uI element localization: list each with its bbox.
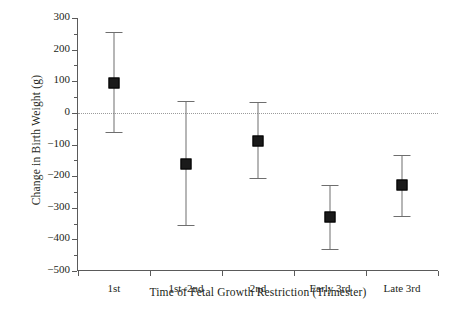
error-bar-cap-lower: [394, 216, 411, 217]
y-tick: [72, 81, 77, 82]
y-tick: [72, 271, 77, 272]
error-bar-cap-lower: [106, 132, 123, 133]
error-bar-cap-lower: [178, 225, 195, 226]
y-tick: [72, 145, 77, 146]
error-bar-cap-lower: [250, 178, 267, 179]
x-axis-line: [77, 270, 438, 271]
y-tick-label: −400: [47, 231, 70, 243]
error-bar-cap-upper: [250, 102, 267, 103]
y-tick: [72, 50, 77, 51]
y-tick-label: −500: [47, 263, 70, 275]
data-point-marker: [109, 77, 120, 88]
x-tick: [366, 271, 367, 276]
y-tick: [72, 208, 77, 209]
y-tick-label: −200: [47, 168, 70, 180]
y-tick-minor: [74, 224, 77, 225]
x-tick: [78, 271, 79, 276]
data-point-marker: [253, 135, 264, 146]
y-tick-label: 200: [54, 42, 71, 54]
chart-figure: Change in Birth Weight (g) 3002001000−10…: [0, 0, 462, 312]
error-bar-cap-upper: [178, 101, 195, 102]
error-bar-cap-upper: [106, 32, 123, 33]
y-axis-label: Change in Birth Weight (g): [30, 10, 46, 270]
x-axis-label: Time of Fetal Growth Restriction (Trimes…: [78, 286, 438, 298]
y-tick-label: −100: [47, 137, 70, 149]
y-tick: [72, 113, 77, 114]
x-tick: [294, 271, 295, 276]
y-tick-minor: [74, 192, 77, 193]
y-axis-line: [77, 18, 78, 271]
x-tick: [222, 271, 223, 276]
error-bar-cap-upper: [394, 155, 411, 156]
y-tick: [72, 239, 77, 240]
y-tick-label: 300: [54, 10, 71, 22]
y-tick-minor: [74, 34, 77, 35]
error-bar-cap-lower: [322, 249, 339, 250]
x-tick: [438, 271, 439, 276]
y-tick-label: 0: [65, 105, 71, 117]
y-tick-minor: [74, 160, 77, 161]
data-point-marker: [181, 159, 192, 170]
x-tick: [150, 271, 151, 276]
y-tick-minor: [74, 129, 77, 130]
y-tick: [72, 18, 77, 19]
y-tick-label: −300: [47, 200, 70, 212]
y-tick-label: 100: [54, 73, 71, 85]
error-bar-cap-upper: [322, 185, 339, 186]
data-point-marker: [325, 212, 336, 223]
plot-area: 3002001000−100−200−300−400−500 1st1st–2n…: [78, 18, 438, 271]
data-point-marker: [397, 179, 408, 190]
y-tick-minor: [74, 65, 77, 66]
y-tick-minor: [74, 97, 77, 98]
y-tick-minor: [74, 255, 77, 256]
y-tick: [72, 176, 77, 177]
